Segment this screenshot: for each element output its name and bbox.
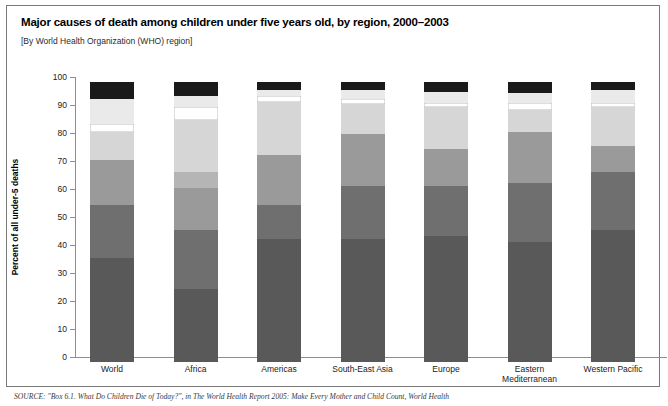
- bar-segment: [174, 289, 218, 362]
- bar-segment: [508, 82, 552, 93]
- bar-segment: [341, 82, 385, 90]
- bar-segment: [90, 205, 134, 258]
- bar-segment: [424, 92, 468, 103]
- x-axis-tick-label: Western Pacific: [553, 364, 668, 374]
- y-axis-tick: [70, 217, 75, 218]
- x-axis-label-line: Western Pacific: [553, 364, 668, 374]
- y-axis-tick: [70, 189, 75, 190]
- bar-europe[interactable]: [424, 82, 468, 362]
- bar-segment: [174, 172, 218, 189]
- y-axis-tick-label: 30: [58, 268, 67, 278]
- bar-segment: [508, 110, 552, 132]
- bar-segment: [174, 120, 218, 172]
- bar-africa[interactable]: [174, 82, 218, 362]
- bar-eastern-mediterranean[interactable]: [508, 82, 552, 362]
- bar-segment: [257, 102, 301, 155]
- bar-segment: [508, 132, 552, 182]
- y-axis-tick: [70, 77, 75, 78]
- y-axis-tick: [70, 357, 75, 358]
- bar-segment: [424, 82, 468, 92]
- bar-segment: [257, 205, 301, 239]
- y-axis-tick: [70, 245, 75, 246]
- bar-world[interactable]: [90, 82, 134, 362]
- bar-segment: [508, 103, 552, 110]
- y-axis-tick: [70, 105, 75, 106]
- bar-segment: [90, 82, 134, 99]
- bar-segment: [424, 186, 468, 236]
- bar-segment: [508, 183, 552, 242]
- bar-segment: [591, 172, 635, 231]
- page-title: Major causes of death among children und…: [21, 16, 449, 28]
- y-axis-tick: [70, 329, 75, 330]
- bar-segment: [341, 99, 385, 105]
- bar-segment: [591, 90, 635, 103]
- y-axis-tick-label: 80: [58, 128, 67, 138]
- bar-segment: [90, 124, 134, 132]
- bar-segment: [591, 107, 635, 146]
- bar-segment: [174, 188, 218, 230]
- y-axis-tick-label: 60: [58, 184, 67, 194]
- bar-south-east-asia[interactable]: [341, 82, 385, 362]
- bar-segment: [257, 96, 301, 102]
- bar-segment: [424, 236, 468, 362]
- y-axis-tick: [70, 301, 75, 302]
- bar-segment: [341, 239, 385, 362]
- bar-segment: [174, 230, 218, 289]
- bar-segment: [257, 82, 301, 90]
- bar-segment: [90, 160, 134, 205]
- chart-subtitle: [By World Health Organization (WHO) regi…: [21, 36, 192, 46]
- bar-segment: [591, 146, 635, 171]
- bar-segment: [341, 186, 385, 239]
- bar-segment: [90, 99, 134, 124]
- bar-segment: [424, 149, 468, 185]
- bar-segment: [424, 103, 468, 107]
- bar-segment: [174, 82, 218, 96]
- y-axis-tick-label: 70: [58, 156, 67, 166]
- bar-segment: [90, 258, 134, 362]
- bar-segment: [174, 96, 218, 107]
- y-axis-tick-label: 10: [58, 324, 67, 334]
- bar-segment: [424, 107, 468, 149]
- bar-segment: [591, 103, 635, 107]
- bar-segment: [257, 90, 301, 96]
- bar-segment: [341, 104, 385, 133]
- y-axis-tick: [70, 133, 75, 134]
- bar-segment: [508, 242, 552, 362]
- bar-americas[interactable]: [257, 82, 301, 362]
- y-axis-line: [75, 77, 76, 357]
- bar-segment: [341, 90, 385, 98]
- y-axis-labels: 0102030405060708090100: [41, 77, 67, 357]
- source-caption: SOURCE: "Box 6.1. What Do Children Die o…: [14, 392, 654, 401]
- y-axis-tick-label: 20: [58, 296, 67, 306]
- bar-segment: [591, 82, 635, 90]
- y-axis-tick: [70, 161, 75, 162]
- y-axis-tick: [70, 273, 75, 274]
- chart-frame: Major causes of death among children und…: [6, 5, 660, 387]
- x-axis-label-line: Mediterranean: [470, 374, 590, 384]
- bar-segment: [508, 93, 552, 103]
- plot-area: Percent of all under-5 deaths 0102030405…: [75, 77, 667, 362]
- y-axis-title: Percent of all under-5 deaths: [10, 159, 20, 276]
- y-axis-tick-label: 0: [62, 352, 67, 362]
- bar-segment: [90, 132, 134, 160]
- bar-segment: [341, 134, 385, 186]
- y-axis-tick-label: 100: [53, 72, 67, 82]
- bar-western-pacific[interactable]: [591, 82, 635, 362]
- y-axis-tick-label: 50: [58, 212, 67, 222]
- bar-segment: [257, 155, 301, 205]
- y-axis-tick-label: 40: [58, 240, 67, 250]
- bar-segment: [591, 230, 635, 362]
- bar-segment: [257, 239, 301, 362]
- bar-segment: [174, 107, 218, 120]
- y-axis-tick-label: 90: [58, 100, 67, 110]
